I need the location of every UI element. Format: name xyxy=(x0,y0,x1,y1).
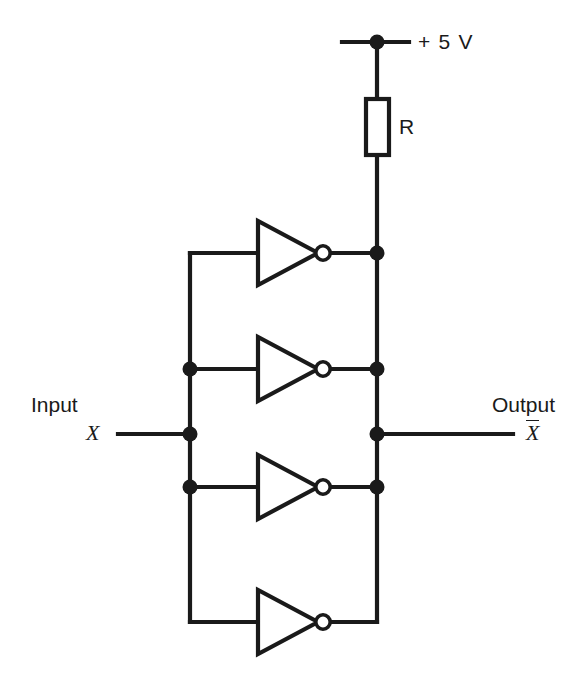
inverter-1 xyxy=(258,221,330,285)
junction-dot-output-3 xyxy=(370,480,385,495)
junction-dot-output-2 xyxy=(370,362,385,377)
output-variable-overbar: X xyxy=(526,420,539,444)
inverter-3-triangle xyxy=(258,455,318,519)
junction-dot-input-3 xyxy=(183,480,198,495)
inverter-3-bubble xyxy=(316,480,330,494)
inverter-2-bubble xyxy=(316,362,330,376)
output-variable-label: X xyxy=(526,420,539,444)
inverter-2-triangle xyxy=(258,337,318,401)
inverter-1-bubble xyxy=(316,246,330,260)
inverter-4-bubble xyxy=(316,615,330,629)
inverter-1-triangle xyxy=(258,221,318,285)
junction-dot-input-2 xyxy=(183,362,198,377)
inverter-3 xyxy=(258,455,330,519)
output-label: Output xyxy=(492,394,555,415)
inverter-4-triangle xyxy=(258,590,318,654)
inverter-4 xyxy=(258,590,330,654)
junction-dot-output-1 xyxy=(370,246,385,261)
diagram-canvas: + 5 V R Input X Output X xyxy=(0,0,585,684)
resistor-body xyxy=(366,99,389,155)
junction-dot-supply xyxy=(370,35,385,50)
wire-group xyxy=(118,42,513,622)
supply-voltage-label: + 5 V xyxy=(418,31,474,52)
input-variable-label: X xyxy=(86,422,99,444)
junction-dot-output-signal xyxy=(370,427,385,442)
circuit-schematic xyxy=(0,0,585,684)
inverter-2 xyxy=(258,337,330,401)
junction-dot-input-signal xyxy=(183,427,198,442)
resistor-label: R xyxy=(399,116,414,137)
input-label: Input xyxy=(31,394,78,415)
